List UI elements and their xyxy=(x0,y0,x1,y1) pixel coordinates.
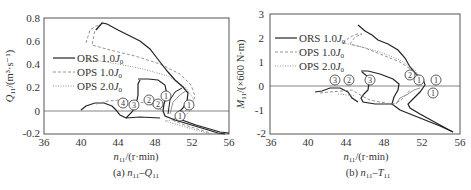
ytick: -0.2 xyxy=(23,127,40,139)
xtick: 44 xyxy=(341,136,353,148)
svg-text:1: 1 xyxy=(164,92,168,101)
series-ops2-low-b xyxy=(338,94,355,96)
marker-2: 2 xyxy=(405,70,415,80)
plot-frame-a xyxy=(44,18,229,134)
legend-item: OPS 2.0J0 xyxy=(299,60,345,74)
ytick: 0 xyxy=(259,80,265,92)
marker-1: 1 xyxy=(431,75,441,85)
caption-b: (b) n11–T11 xyxy=(346,167,391,180)
xtick: 36 xyxy=(39,136,51,148)
marker-1: 1 xyxy=(414,75,424,85)
ytick: 0.4 xyxy=(26,58,40,70)
svg-text:2: 2 xyxy=(408,71,412,80)
xtick: 36 xyxy=(266,136,278,148)
xtick: 48 xyxy=(150,136,162,148)
x-ticks-a: 36 40 44 48 52 56 xyxy=(39,136,236,148)
series-ors-branch-a xyxy=(126,80,140,118)
svg-text:1: 1 xyxy=(187,101,191,110)
y-axis-label-a: Q11/(m³·s⁻¹) xyxy=(4,49,17,102)
xtick: 56 xyxy=(455,136,467,148)
y-ticks-a: 0.8 0.6 0.4 0.2 0 -0.2 xyxy=(23,12,41,139)
xtick: 56 xyxy=(224,136,236,148)
ytick: 0 xyxy=(35,105,41,117)
svg-text:2: 2 xyxy=(156,100,160,109)
svg-text:1: 1 xyxy=(434,76,438,85)
svg-text:1: 1 xyxy=(431,89,435,98)
svg-text:2: 2 xyxy=(347,76,351,85)
ytick: 3 xyxy=(259,8,265,20)
svg-text:4: 4 xyxy=(121,99,125,108)
marker-3: 3 xyxy=(365,75,375,85)
x-ticks-b: 36 40 44 48 52 56 xyxy=(266,136,467,148)
ytick: 0.2 xyxy=(26,81,40,93)
ytick: 1 xyxy=(259,56,265,68)
marker-3: 3 xyxy=(330,75,340,85)
panel-b: 3 2 1 0 -1 -2 36 40 44 48 52 56 n11/(r·m… xyxy=(235,8,466,180)
series-ors-loop-a xyxy=(168,88,182,114)
marker-2: 2 xyxy=(153,99,163,109)
y-axis-label-b: M11/(×600 N·m) xyxy=(235,39,248,109)
marker-3: 3 xyxy=(129,100,139,110)
marker-2: 2 xyxy=(144,95,154,105)
xtick: 52 xyxy=(417,136,428,148)
svg-text:3: 3 xyxy=(132,101,136,110)
marker-4: 4 xyxy=(118,98,128,108)
marker-2: 2 xyxy=(344,75,354,85)
xtick: 40 xyxy=(303,136,315,148)
ytick: 0.8 xyxy=(26,12,40,24)
series-ors-1-0j0-inner-a xyxy=(138,79,225,134)
y-ticks-b: 3 2 1 0 -1 -2 xyxy=(255,8,266,139)
svg-text:3: 3 xyxy=(333,76,337,85)
legend-item: ORS 1.0J0 xyxy=(77,52,124,66)
marker-1: 1 xyxy=(161,91,171,101)
xtick: 52 xyxy=(187,136,198,148)
legend-item: OPS 2.0J0 xyxy=(77,80,123,94)
ytick: 0.6 xyxy=(26,35,40,47)
ytick: -1 xyxy=(255,104,264,116)
panel-a: 0.8 0.6 0.4 0.2 0 -0.2 36 40 44 48 52 56… xyxy=(4,12,235,180)
x-axis-label-a: n11/(r·min) xyxy=(113,151,159,164)
curves-a xyxy=(81,23,229,134)
marker-1: 1 xyxy=(184,100,194,110)
legend-item: OPS 1.0J0 xyxy=(299,46,345,60)
legend-a: ORS 1.0J0 OPS 1.0J0 OPS 2.0J0 xyxy=(53,52,124,94)
series-ops-loop-a xyxy=(170,90,187,114)
markers-a: 4 3 2 2 1 1 1 xyxy=(118,91,194,121)
legend-item: OPS 1.0J0 xyxy=(77,66,123,80)
xtick: 48 xyxy=(379,136,391,148)
marker-1: 1 xyxy=(428,88,438,98)
figure: 0.8 0.6 0.4 0.2 0 -0.2 36 40 44 48 52 56… xyxy=(0,0,471,190)
legend-item: ORS 1.0J0 xyxy=(299,32,346,46)
marker-1: 1 xyxy=(175,111,185,121)
svg-text:1: 1 xyxy=(417,76,421,85)
x-axis-label-b: n11/(r·min) xyxy=(343,151,389,164)
xtick: 40 xyxy=(76,136,88,148)
legend-b: ORS 1.0J0 OPS 1.0J0 OPS 2.0J0 xyxy=(275,32,346,74)
series-ors-1-0j0-a xyxy=(96,23,229,133)
ytick: 2 xyxy=(259,32,265,44)
svg-text:3: 3 xyxy=(368,76,372,85)
xtick: 44 xyxy=(113,136,125,148)
svg-text:1: 1 xyxy=(178,112,182,121)
svg-text:2: 2 xyxy=(147,96,151,105)
caption-a: (a) n11–Q11 xyxy=(113,167,159,180)
